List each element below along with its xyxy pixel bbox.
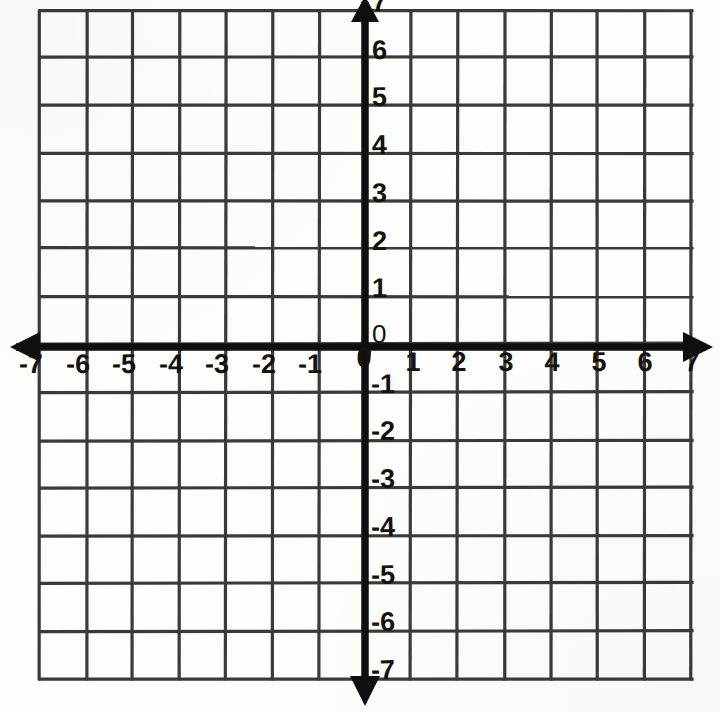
x-tick-label--2: -2 [252,351,276,378]
y-tick-label-7: 7 [372,0,387,16]
y-tick-label-5: 5 [372,84,387,111]
x-tick-label-6: 6 [638,349,654,376]
y-tick-label--1: -1 [371,371,395,398]
y-tick-label--2: -2 [371,418,395,445]
x-tick-label-1: 1 [405,349,420,376]
y-tick-label--7: -7 [371,657,396,685]
x-tick-label--5: -5 [112,351,136,378]
y-tick-label-1: 1 [372,275,387,302]
x-tick-label--4: -4 [159,351,183,378]
coordinate-grid-figure: -7-6-5-4-3-2-10123456776543210-1-2-3-4-5… [0,0,720,712]
x-tick-label--1: -1 [298,351,322,378]
x-tick-label--3: -3 [205,351,229,378]
y-tick-label-2: 2 [372,228,387,255]
x-tick-label-5: 5 [591,349,606,376]
y-tick-label-4: 4 [372,132,387,159]
y-tick-label--4: -4 [371,514,396,542]
y-tick-label--6: -6 [371,609,396,636]
y-tick-label-6: 6 [372,37,388,64]
x-tick-label-3: 3 [498,349,513,376]
x-tick-label--6: -6 [65,351,89,378]
y-tick-label--3: -3 [371,466,396,494]
x-tick-label--7: -7 [19,351,43,378]
x-tick-label-origin: 0 [356,345,371,372]
y-tick-label-origin: 0 [372,321,386,347]
x-tick-label-7: 7 [684,349,700,376]
x-tick-label-4: 4 [545,349,560,376]
x-tick-label-2: 2 [452,349,467,376]
y-tick-label--5: -5 [371,561,396,589]
y-tick-label-3: 3 [372,180,387,207]
